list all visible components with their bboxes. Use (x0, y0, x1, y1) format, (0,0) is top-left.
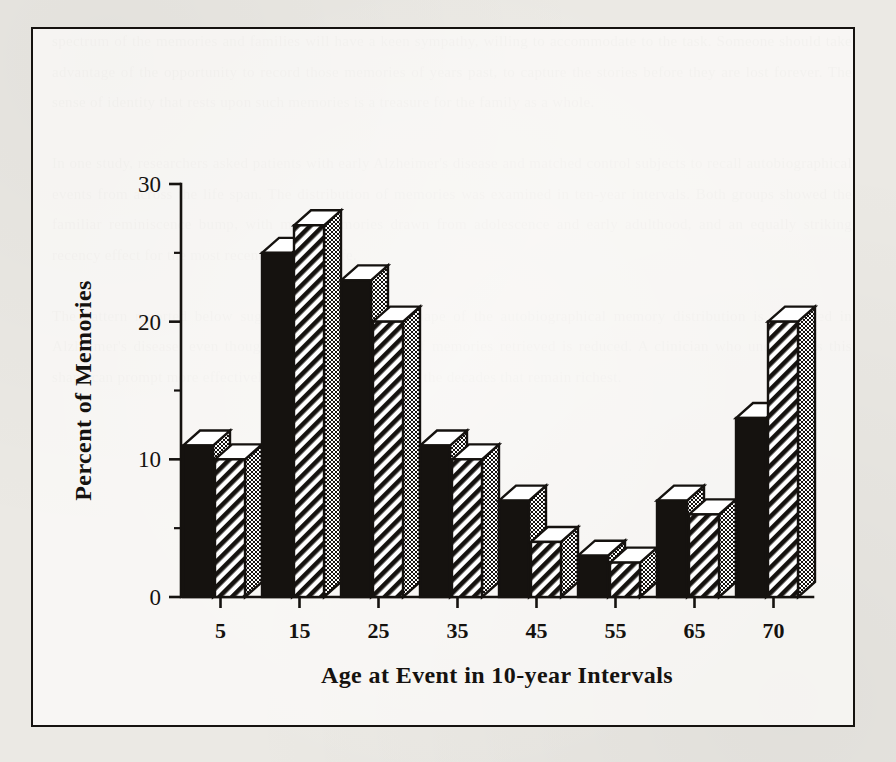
bar-front-face (183, 446, 213, 597)
bar-chart: 0102030 515253545556570Age at Event in 1… (33, 29, 853, 725)
x-tick-label: 5 (215, 618, 226, 643)
bar-side-face (403, 307, 420, 597)
bar-side-face (719, 499, 736, 597)
x-axis-title: Age at Event in 10-year Intervals (321, 662, 673, 688)
x-tick-label: 55 (605, 618, 627, 643)
chart-canvas: 0102030 515253545556570Age at Event in 1… (33, 29, 853, 725)
x-tick-label: 65 (684, 618, 706, 643)
bar-front-face (215, 459, 245, 597)
bar-side-face (482, 444, 499, 597)
bar-alzheimers-25 (373, 307, 420, 597)
figure-frame: 0102030 515253545556570Age at Event in 1… (31, 27, 855, 727)
bar-alzheimers-65 (689, 499, 736, 597)
bar-front-face (420, 446, 450, 597)
bar-alzheimers-55 (610, 548, 657, 597)
x-tick-label: 25 (368, 618, 390, 643)
bars (183, 210, 815, 597)
bar-front-face (578, 556, 608, 597)
bar-front-face (768, 322, 798, 597)
x-tick-label: 45 (526, 618, 548, 643)
x-tick-label: 15 (289, 618, 311, 643)
y-tick-label: 0 (150, 585, 162, 610)
bar-front-face (610, 563, 640, 597)
bar-front-face (262, 253, 292, 597)
bar-front-face (373, 322, 403, 597)
bar-alzheimers-70 (768, 307, 815, 597)
bar-side-face (245, 444, 262, 597)
bar-alzheimers-35 (452, 444, 499, 597)
bar-front-face (294, 225, 324, 597)
y-tick-label: 10 (138, 447, 161, 472)
y-axis-title: Percent of Memories (70, 280, 96, 500)
bar-alzheimers-15 (294, 210, 341, 597)
bar-alzheimers-45 (531, 527, 578, 597)
bar-side-face (798, 307, 815, 597)
bar-side-face (324, 210, 341, 597)
bar-front-face (657, 501, 687, 597)
x-tick-label: 35 (447, 618, 469, 643)
y-tick-label: 20 (138, 310, 161, 335)
bar-front-face (341, 280, 371, 597)
bar-alzheimers-5 (215, 444, 262, 597)
bar-front-face (499, 501, 529, 597)
bar-front-face (736, 418, 766, 597)
bar-front-face (689, 514, 719, 597)
y-tick-label: 30 (138, 172, 161, 197)
x-tick-label: 70 (763, 618, 785, 643)
bar-front-face (531, 542, 561, 597)
bar-front-face (452, 459, 482, 597)
